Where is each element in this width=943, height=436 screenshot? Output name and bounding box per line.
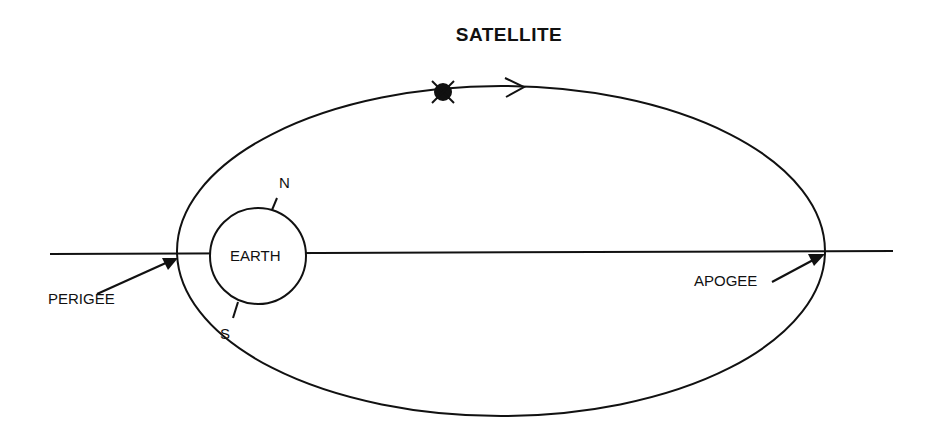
south-pole-tick bbox=[233, 302, 238, 318]
north-pole-tick bbox=[272, 198, 277, 210]
south-label: S bbox=[220, 325, 230, 342]
satellite-icon bbox=[432, 81, 454, 103]
perigee-label: PERIGEE bbox=[48, 290, 115, 307]
diagram-title: SATELLITE bbox=[0, 24, 943, 46]
perigee-arrow-icon bbox=[97, 258, 178, 294]
orbit-direction-arrow-icon bbox=[505, 78, 524, 97]
apogee-arrow-icon bbox=[772, 254, 825, 282]
earth-label: EARTH bbox=[230, 247, 281, 264]
apogee-label: APOGEE bbox=[694, 272, 757, 289]
orbit-diagram bbox=[0, 0, 943, 436]
north-label: N bbox=[279, 174, 290, 191]
